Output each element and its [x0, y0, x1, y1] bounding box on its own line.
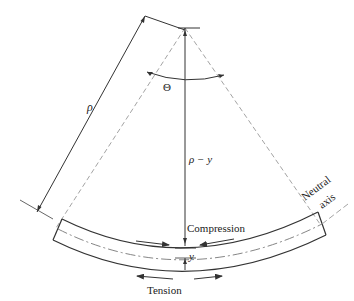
tension-label: Tension — [147, 284, 182, 296]
curved-beam — [53, 204, 348, 271]
theta-label: Θ — [163, 81, 171, 93]
vertical-radius-line — [178, 28, 200, 246]
radial-dashed-lines — [56, 28, 320, 228]
neutral-axis-label-line2: axis — [316, 190, 337, 210]
tension-arrows — [137, 276, 222, 279]
rho-dimension-line — [20, 16, 185, 219]
compression-label: Compression — [187, 222, 246, 234]
rho-minus-y-label: ρ − y — [188, 153, 212, 165]
beam-bending-diagram: ρ Θ ρ − y Compression y Tension Neutral … — [0, 0, 354, 301]
rho-label: ρ — [86, 100, 93, 114]
y-label: y — [188, 250, 194, 262]
